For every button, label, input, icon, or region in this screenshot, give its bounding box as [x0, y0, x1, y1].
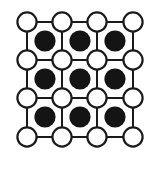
open-circle-node: [52, 50, 71, 69]
open-circle-node: [52, 127, 71, 146]
open-circle-node: [87, 88, 106, 107]
filled-circle-node: [69, 68, 90, 89]
open-circle-node: [123, 12, 142, 31]
open-circle-node: [52, 12, 71, 31]
filled-circle-node: [34, 30, 55, 51]
open-circle-node: [123, 50, 142, 69]
filled-circle-node: [69, 30, 90, 51]
open-circle-node: [87, 127, 106, 146]
filled-circle-node: [104, 106, 125, 127]
open-circle-node: [17, 50, 36, 69]
open-circle-node: [123, 88, 142, 107]
open-circle-node: [17, 88, 36, 107]
filled-circle-node: [34, 106, 55, 127]
open-circle-node: [87, 12, 106, 31]
filled-node-layer: [34, 30, 125, 127]
filled-circle-node: [34, 68, 55, 89]
filled-circle-node: [69, 106, 90, 127]
open-circle-node: [123, 127, 142, 146]
open-circle-node: [87, 50, 106, 69]
open-circle-node: [17, 127, 36, 146]
open-circle-node: [52, 88, 71, 107]
filled-circle-node: [104, 30, 125, 51]
filled-circle-node: [104, 68, 125, 89]
lattice-diagram-figure: [0, 0, 152, 189]
open-circle-node: [17, 12, 36, 31]
lattice-diagram-canvas: [0, 0, 152, 189]
